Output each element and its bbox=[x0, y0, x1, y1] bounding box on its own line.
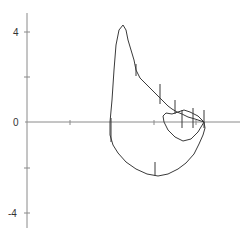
series-loop bbox=[110, 25, 205, 176]
curve-tick-marks bbox=[111, 64, 204, 176]
y-label-0: 0 bbox=[13, 117, 19, 128]
y-label-4: 4 bbox=[13, 27, 19, 38]
y-label-minus4: -4 bbox=[8, 208, 17, 219]
loop-chart: 4 0 -4 bbox=[0, 0, 246, 240]
loop-curve bbox=[110, 25, 205, 176]
